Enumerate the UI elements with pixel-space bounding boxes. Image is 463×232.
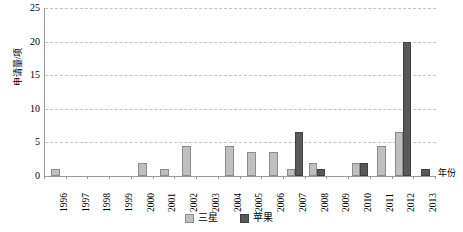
bar-samsung (182, 146, 191, 176)
x-tick-label: 2010 (363, 178, 373, 212)
bar-samsung (395, 132, 403, 176)
bar-group (306, 8, 328, 176)
legend-label: 三星 (198, 213, 218, 223)
x-axis-title: 年份 (438, 166, 456, 179)
x-tick-label: 2011 (385, 178, 395, 212)
bar-samsung (269, 152, 278, 176)
x-tick-label: 2006 (276, 178, 286, 212)
bar-apple (360, 163, 368, 176)
x-tick-label: 2013 (428, 178, 438, 212)
bar-group (197, 8, 219, 176)
bar-group (132, 8, 154, 176)
x-tick-label: 1997 (81, 178, 91, 212)
bar-group (154, 8, 176, 176)
bar-apple (421, 169, 430, 176)
x-tick-label: 2012 (406, 178, 416, 212)
y-tick-label: 5 (18, 137, 40, 147)
x-tick-label: 2005 (254, 178, 264, 212)
y-tick-label: 10 (18, 104, 40, 114)
bar-group (349, 8, 371, 176)
x-axis-tick-labels: 1996199719981999200020012002200320042005… (44, 180, 435, 214)
y-tick-label: 20 (18, 37, 40, 47)
bar-group (110, 8, 132, 176)
chart-legend: 三星苹果 (185, 211, 273, 225)
y-axis-tick-labels: 2520151050 (18, 0, 40, 182)
bar-samsung (377, 146, 386, 176)
bar-group (393, 8, 415, 176)
x-tick-label: 2007 (298, 178, 308, 212)
y-tick-label: 0 (18, 171, 40, 181)
x-tick-label: 2004 (233, 178, 243, 212)
bar-apple (403, 42, 411, 176)
bar-group (262, 8, 284, 176)
x-tick-mark (44, 176, 45, 179)
bar-series-container (45, 8, 436, 176)
bar-apple (295, 132, 303, 176)
bar-group (67, 8, 89, 176)
bar-group (88, 8, 110, 176)
bar-group (327, 8, 349, 176)
x-tick-label: 2000 (146, 178, 156, 212)
legend-item-samsung: 三星 (185, 213, 218, 223)
y-tick-label: 25 (18, 3, 40, 13)
bar-group (219, 8, 241, 176)
bar-samsung (160, 169, 169, 176)
bar-group (284, 8, 306, 176)
bar-group (241, 8, 263, 176)
bar-samsung (225, 146, 234, 176)
bar-samsung (287, 169, 295, 176)
bar-group (45, 8, 67, 176)
legend-label: 苹果 (253, 213, 273, 223)
bar-samsung (309, 163, 317, 176)
x-tick-label: 2001 (167, 178, 177, 212)
bar-samsung (138, 163, 147, 176)
bar-apple (317, 169, 325, 176)
x-tick-label: 2008 (320, 178, 330, 212)
x-tick-label: 2009 (341, 178, 351, 212)
bar-group (175, 8, 197, 176)
bar-samsung (51, 169, 60, 176)
x-tick-label: 1999 (124, 178, 134, 212)
legend-item-apple: 苹果 (240, 213, 273, 223)
bar-group (414, 8, 436, 176)
bar-samsung (247, 152, 256, 176)
y-tick-label: 15 (18, 70, 40, 80)
x-tick-label: 2002 (189, 178, 199, 212)
x-tick-label: 1996 (59, 178, 69, 212)
legend-swatch-icon (185, 214, 194, 223)
x-tick-label: 1998 (102, 178, 112, 212)
legend-swatch-icon (240, 214, 249, 223)
bar-group (371, 8, 393, 176)
plot-area (44, 8, 435, 176)
bar-samsung (352, 163, 360, 176)
bar-chart-figure: 申请量/项 2520151050 19961997199819992000200… (0, 0, 463, 232)
x-tick-label: 2003 (211, 178, 221, 212)
